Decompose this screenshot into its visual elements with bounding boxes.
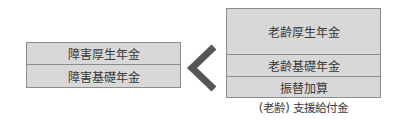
transfer-addition: 振替加算 (227, 77, 380, 97)
less-than-chevron-icon (186, 44, 218, 92)
old-age-basic-pension: 老齢基礎年金 (227, 55, 380, 77)
disability-basic-pension: 障害基礎年金 (27, 65, 180, 87)
support-benefit-caption: (老齢) 支援給付金 (226, 99, 381, 115)
old-age-pension-group: 老齢厚生年金 老齢基礎年金 振替加算 (226, 8, 381, 98)
disability-employees-pension: 障害厚生年金 (27, 43, 180, 65)
old-age-employees-pension: 老齢厚生年金 (227, 9, 380, 55)
disability-pension-group: 障害厚生年金 障害基礎年金 (26, 42, 181, 88)
